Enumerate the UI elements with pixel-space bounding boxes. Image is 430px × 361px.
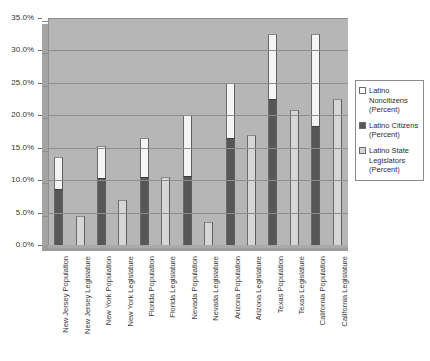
bar-segment-legislators xyxy=(161,177,170,245)
bar-group xyxy=(198,18,219,245)
plot-floor-top xyxy=(48,245,348,248)
bar-group xyxy=(262,18,283,245)
y-tick-label: 10.0% xyxy=(11,176,34,184)
gridline xyxy=(48,148,348,149)
y-axis: 0.0%5.0%10.0%15.0%20.0%25.0%30.0%35.0% xyxy=(0,0,42,261)
bar-group xyxy=(219,18,240,245)
legend-label-legislators: Latino State Legislators (Percent) xyxy=(369,146,409,175)
y-tick-label: 20.0% xyxy=(11,111,34,119)
y-tick-label: 30.0% xyxy=(11,46,34,54)
gridline-wall-segment xyxy=(42,21,48,22)
legend-swatch-icon-legislators xyxy=(359,147,366,154)
bar-group xyxy=(177,18,198,245)
x-tick-label: Texas Legislature xyxy=(298,256,306,314)
x-tick-label: Texas Population xyxy=(277,256,285,313)
legend-item-legislators: Latino State Legislators (Percent) xyxy=(359,146,420,175)
bars-layer xyxy=(48,18,348,245)
legend-item-noncitizens: Latino Noncitizens (Percent) xyxy=(359,86,420,115)
bar-group xyxy=(112,18,133,245)
bar-segment-noncitizens xyxy=(97,146,106,178)
legend-label-noncitizens: Latino Noncitizens (Percent) xyxy=(369,86,408,115)
bar-group xyxy=(69,18,90,245)
gridline xyxy=(48,115,348,116)
gridline-wall-segment xyxy=(42,53,48,54)
x-tick-label: New York Population xyxy=(105,256,113,325)
x-tick-label: California Population xyxy=(319,256,327,325)
x-tick-label: New Jersey Legislature xyxy=(84,256,92,334)
bar-segment-citizens xyxy=(226,138,235,245)
bar-segment-legislators xyxy=(76,216,85,245)
legend-item-citizens: Latino Citizens (Percent) xyxy=(359,121,420,140)
bar-segment-legislators xyxy=(247,135,256,245)
bar-group xyxy=(327,18,348,245)
bar-segment-noncitizens xyxy=(140,138,149,177)
bar-group xyxy=(284,18,305,245)
legend-swatch-icon-noncitizens xyxy=(359,87,366,94)
bar-segment-noncitizens xyxy=(226,83,235,138)
y-tick-label: 0.0% xyxy=(16,241,34,249)
bar-group xyxy=(305,18,326,245)
y-tick-label: 35.0% xyxy=(11,14,34,22)
x-tick-label: Nevada Legislature xyxy=(212,256,220,321)
gridline xyxy=(48,50,348,51)
gridline-wall-segment xyxy=(42,118,48,119)
bar-segment-noncitizens xyxy=(268,34,277,99)
gridline-wall-segment xyxy=(42,183,48,184)
x-tick-label: Florida Legislature xyxy=(169,256,177,318)
bar-segment-noncitizens xyxy=(183,115,192,175)
gridline xyxy=(48,18,348,19)
bar-segment-citizens xyxy=(268,99,277,245)
bar-segment-citizens xyxy=(54,189,63,245)
bar-segment-citizens xyxy=(140,177,149,245)
y-tick-label: 25.0% xyxy=(11,79,34,87)
bar-segment-citizens xyxy=(311,126,320,245)
gridline xyxy=(48,83,348,84)
x-tick-label: Arizona Population xyxy=(234,256,242,319)
bar-segment-noncitizens xyxy=(311,34,320,126)
gridline xyxy=(48,213,348,214)
gridline-wall-segment xyxy=(42,151,48,152)
bar-segment-citizens xyxy=(183,176,192,245)
bar-group xyxy=(155,18,176,245)
y-tick-label: 5.0% xyxy=(16,209,34,217)
legend-label-citizens: Latino Citizens (Percent) xyxy=(369,121,418,140)
x-tick-label: Arizona Legislature xyxy=(255,256,263,320)
y-tick-label: 15.0% xyxy=(11,144,34,152)
x-tick-label: California Legislature xyxy=(341,256,349,326)
plot-area xyxy=(42,18,348,251)
chart-container: 0.0%5.0%10.0%15.0%20.0%25.0%30.0%35.0% N… xyxy=(0,0,430,361)
bar-group xyxy=(134,18,155,245)
bar-segment-noncitizens xyxy=(54,157,63,188)
x-tick-label: New York Legislature xyxy=(127,256,135,326)
bar-group xyxy=(91,18,112,245)
gridline-wall-segment xyxy=(42,86,48,87)
bar-segment-legislators xyxy=(290,110,299,245)
bar-group xyxy=(48,18,69,245)
x-tick-label: Florida Population xyxy=(148,256,156,316)
gridline-wall-segment xyxy=(42,216,48,217)
x-axis-labels: New Jersey PopulationNew Jersey Legislat… xyxy=(42,256,348,361)
x-tick-label: Nevada Population xyxy=(191,256,199,319)
legend-swatch-icon-citizens xyxy=(359,122,366,129)
bar-segment-legislators xyxy=(204,222,213,245)
gridline xyxy=(48,180,348,181)
chart-legend: Latino Noncitizens (Percent) Latino Citi… xyxy=(355,80,424,181)
bar-segment-legislators xyxy=(333,99,342,245)
x-tick-label: New Jersey Population xyxy=(62,256,70,333)
bar-group xyxy=(241,18,262,245)
bar-segment-legislators xyxy=(118,200,127,245)
